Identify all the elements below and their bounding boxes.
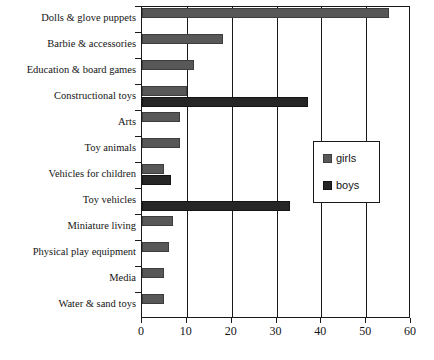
bar-girls — [142, 216, 173, 226]
bar-boys — [142, 97, 308, 107]
bar-girls — [142, 242, 169, 252]
x-axis-tick — [141, 318, 142, 323]
bar-girls — [142, 60, 194, 70]
legend-item-girls: girls — [323, 153, 356, 164]
y-axis-label: Media — [109, 272, 136, 284]
x-axis-tick — [320, 318, 321, 323]
bar-girls — [142, 86, 187, 96]
bar-boys — [142, 201, 290, 211]
x-axis-tick-label: 50 — [350, 324, 380, 338]
x-axis-tick-label: 20 — [216, 324, 246, 338]
x-axis-tick-label: 0 — [126, 324, 156, 338]
y-axis-label: Physical play equipment — [33, 246, 136, 258]
bar-group — [142, 215, 409, 241]
bar-group — [142, 85, 409, 111]
y-axis-label: Water & sand toys — [58, 298, 136, 310]
chart-legend: girlsboys — [313, 141, 380, 203]
x-axis-tick-label: 60 — [395, 324, 425, 338]
bar-group — [142, 241, 409, 267]
bar-girls — [142, 164, 164, 174]
bar-girls — [142, 34, 223, 44]
x-axis-tick-label: 30 — [261, 324, 291, 338]
y-axis-label: Dolls & glove puppets — [41, 12, 136, 24]
bar-group — [142, 293, 409, 319]
x-axis-tick — [186, 318, 187, 323]
bar-group — [142, 111, 409, 137]
y-axis-label: Education & board games — [27, 64, 136, 76]
x-axis-tick — [276, 318, 277, 323]
x-axis-tick-label: 10 — [171, 324, 201, 338]
x-axis-tick — [410, 318, 411, 323]
bar-group — [142, 7, 409, 33]
x-axis-tick-label: 40 — [305, 324, 335, 338]
legend-item-boys: boys — [323, 180, 359, 191]
y-axis-label: Constructional toys — [54, 90, 136, 102]
bar-boys — [142, 175, 171, 185]
bar-girls — [142, 8, 389, 18]
bar-group — [142, 267, 409, 293]
x-axis-tick — [231, 318, 232, 323]
bar-girls — [142, 268, 164, 278]
y-axis-label: Miniature living — [67, 220, 136, 232]
bar-group — [142, 33, 409, 59]
x-axis-tick — [365, 318, 366, 323]
y-axis-label: Toy animals — [85, 142, 136, 154]
bar-group — [142, 59, 409, 85]
bar-girls — [142, 294, 164, 304]
y-axis-label: Arts — [118, 116, 136, 128]
y-axis-label: Toy vehicles — [83, 194, 136, 206]
legend-label: boys — [336, 180, 359, 191]
legend-swatch-icon — [323, 181, 332, 190]
y-axis-label: Vehicles for children — [49, 168, 136, 180]
legend-swatch-icon — [323, 154, 332, 163]
bar-girls — [142, 138, 180, 148]
y-axis-label: Barbie & accessories — [47, 38, 136, 50]
legend-label: girls — [336, 153, 356, 164]
bar-chart: Dolls & glove puppetsBarbie & accessorie… — [0, 0, 434, 360]
bar-girls — [142, 112, 180, 122]
